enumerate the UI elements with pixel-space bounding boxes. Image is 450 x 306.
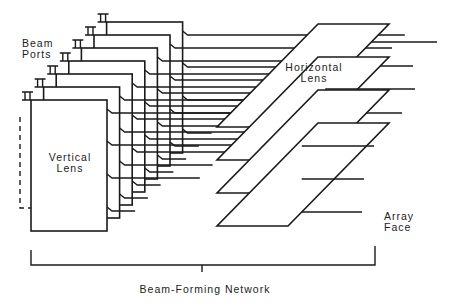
beam-port-7 bbox=[98, 14, 109, 22]
horizontal-lens-label: Horizontal Lens bbox=[279, 62, 349, 84]
beam-forming-network-label: Beam-Forming Network bbox=[110, 284, 300, 295]
beam-port-4 bbox=[60, 53, 71, 61]
dashed-port-line bbox=[20, 117, 31, 208]
beam-forming-network-bracket bbox=[31, 246, 375, 272]
beam-port-2 bbox=[35, 79, 46, 87]
beam-port-3 bbox=[47, 66, 58, 74]
bracket-line bbox=[31, 246, 375, 265]
beam-port-1 bbox=[22, 92, 33, 100]
beam-port-6 bbox=[85, 27, 96, 35]
beam-ports-label: Beam Ports bbox=[22, 38, 53, 60]
array-face-label: Array Face bbox=[384, 211, 414, 233]
horizontal-lens-stack bbox=[217, 24, 437, 226]
beam-port-5 bbox=[72, 40, 83, 48]
vertical-lens-label: Vertical Lens bbox=[44, 152, 96, 174]
